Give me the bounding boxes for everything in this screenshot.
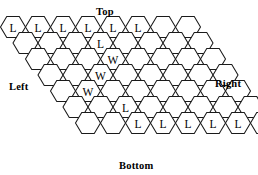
edge-label-right: Right: [215, 78, 241, 89]
hex-marker-l-r5-c2: L: [122, 102, 129, 114]
hex-marker-l-r6-c6: L: [234, 118, 241, 130]
hex-marker-l-r0-c2: L: [59, 22, 66, 34]
edge-label-left: Left: [9, 81, 28, 92]
hex-marker-l-r0-c4: L: [109, 22, 116, 34]
hex-marker-w-r3-c2: W: [95, 70, 106, 82]
hex-marker-w-r2-c3: W: [108, 54, 119, 66]
hex-marker-l-r1-c3: L: [97, 38, 104, 50]
hex-marker-l-r0-c0: L: [9, 22, 16, 34]
edge-label-bottom: Bottom: [119, 160, 153, 171]
edge-label-top: Top: [96, 6, 114, 17]
hex-marker-l-r6-c2: L: [134, 118, 141, 130]
hex-marker-l-r6-c3: L: [159, 118, 166, 130]
hex-marker-w-r4-c1: W: [83, 86, 94, 98]
hex-marker-l-r0-c1: L: [34, 22, 41, 34]
hex-marker-l-r6-c5: L: [209, 118, 216, 130]
hex-marker-l-r6-c4: L: [184, 118, 191, 130]
hex-marker-l-r0-c3: L: [84, 22, 91, 34]
hex-marker-l-r0-c5: L: [134, 22, 141, 34]
hex-board-diagram: LLLLLLLWWWLLLLLLL Top Bottom Left Right: [0, 0, 258, 175]
